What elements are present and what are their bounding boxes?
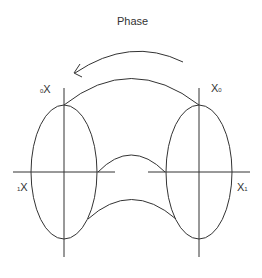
label-mid-right: X1: [237, 182, 248, 193]
label-top-right: X0: [211, 83, 222, 94]
label-mid-left: 1X: [17, 182, 28, 193]
label-main: X: [20, 181, 27, 193]
diagram-title: Phase: [117, 16, 148, 27]
top-connecting-arc: [64, 79, 199, 106]
diagram-canvas: [0, 0, 262, 278]
label-top-left: 0X: [40, 84, 51, 95]
label-main: X: [43, 83, 50, 95]
inner-upper-arc: [98, 155, 165, 172]
lower-connecting-curve: [88, 200, 176, 220]
label-sub: 1: [244, 186, 247, 192]
label-sub: 0: [218, 87, 221, 93]
phase-arrow: [75, 51, 183, 73]
